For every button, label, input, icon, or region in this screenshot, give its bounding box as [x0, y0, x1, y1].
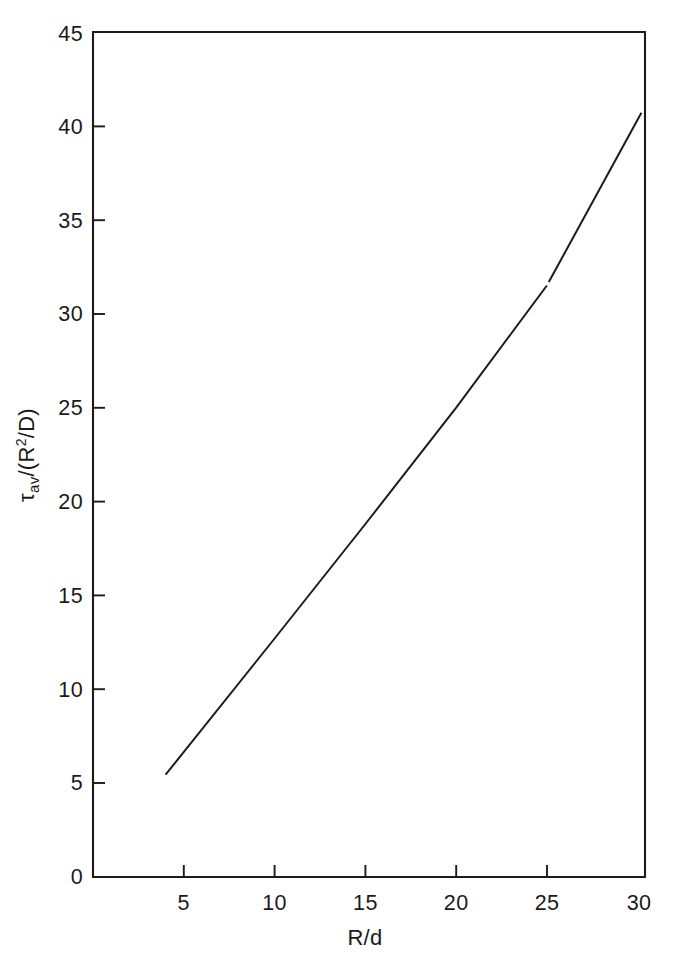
data-line-segment-lower [166, 286, 547, 775]
y-tick-label-35: 35 [58, 209, 83, 233]
y-axis-ticks [93, 126, 105, 783]
y-tick-label-0: 0 [71, 865, 83, 889]
y-tick-label-15: 15 [58, 584, 83, 608]
x-tick-label-15: 15 [353, 891, 378, 915]
figure-container: 0 5 10 15 20 25 30 35 40 45 5 10 15 20 2… [0, 0, 673, 959]
x-tick-label-30: 30 [627, 891, 652, 915]
y-tick-label-45: 45 [58, 22, 83, 46]
y-tick-label-20: 20 [58, 490, 83, 514]
y-tick-label-5: 5 [71, 771, 83, 795]
x-tick-label-20: 20 [444, 891, 469, 915]
y-title-close: /D) [14, 408, 39, 438]
data-series-group [166, 113, 642, 775]
x-axis-ticks [184, 865, 547, 877]
svg-text:τav/(R2/D): τav/(R2/D) [13, 408, 42, 502]
y-title-slash-open: /(R [14, 446, 39, 476]
y-axis-title: τav/(R2/D) [13, 408, 42, 502]
y-axis-tick-labels: 0 5 10 15 20 25 30 35 40 45 [58, 22, 83, 890]
y-tick-label-40: 40 [58, 115, 83, 139]
y-title-subscript: av [25, 476, 42, 493]
x-tick-label-25: 25 [535, 891, 560, 915]
y-title-superscript: 2 [13, 438, 29, 446]
chart-plot: 0 5 10 15 20 25 30 35 40 45 5 10 15 20 2… [0, 0, 673, 959]
x-axis-tick-labels: 5 10 15 20 25 30 [178, 891, 652, 915]
y-tick-label-25: 25 [58, 396, 83, 420]
data-line-segment-upper [549, 113, 642, 282]
y-title-tau: τ [14, 493, 39, 502]
x-axis-title: R/d [347, 925, 382, 950]
y-tick-label-30: 30 [58, 302, 83, 326]
plot-frame [93, 32, 645, 877]
x-tick-label-10: 10 [262, 891, 287, 915]
y-tick-label-10: 10 [58, 678, 83, 702]
x-tick-label-5: 5 [178, 891, 190, 915]
